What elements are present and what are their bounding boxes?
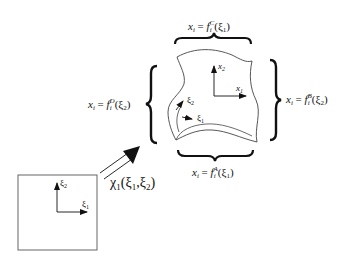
eq: = <box>293 93 305 105</box>
sub: 1 <box>86 204 89 210</box>
sub: 1 <box>240 88 243 94</box>
f-sub: i <box>210 26 212 34</box>
mapping-arrow-line-a <box>100 153 128 173</box>
eq: = <box>195 20 207 32</box>
args-sep: ,ξ <box>136 175 146 190</box>
eq: = <box>95 98 107 110</box>
bottom-brace <box>178 150 253 161</box>
left-edge-label: xi = fiD(ξ2) <box>88 98 130 112</box>
xi1-curvilinear-arrow <box>182 117 192 119</box>
reference-square <box>18 175 97 250</box>
x1-axis-label: x1 <box>236 84 243 94</box>
region-xi2-label: ξ2 <box>187 96 194 106</box>
x2-axis-label: x2 <box>218 62 225 72</box>
ref-xi2-label: ξ2 <box>60 179 67 189</box>
curvilinear-line-xi1 <box>176 124 252 140</box>
eq: = <box>199 166 211 178</box>
right-edge-label: xi = fiB(ξ2) <box>286 93 328 107</box>
close: ) <box>127 98 131 110</box>
ref-xi1-label: ξ1 <box>82 200 89 210</box>
close: ) <box>324 93 328 105</box>
args-open: (ξ <box>121 175 132 190</box>
curvilinear-line-xi2 <box>177 108 180 132</box>
arg: (ξ <box>214 20 223 32</box>
right-brace <box>270 60 281 140</box>
arg: (ξ <box>115 98 124 110</box>
diagram-canvas <box>0 0 347 260</box>
bottom-edge-label: xi = fiA(ξ1) <box>192 166 234 180</box>
region-xi1-label: ξ1 <box>197 114 204 124</box>
f-sub: i <box>214 172 216 180</box>
f-sub: i <box>110 104 112 112</box>
left-brace <box>146 66 157 143</box>
top-edge-label: xi = fiC(ξ1) <box>188 20 230 34</box>
close: ) <box>226 20 230 32</box>
args-close: ) <box>150 175 155 190</box>
sub: 2 <box>64 183 67 189</box>
sub: 1 <box>201 118 204 124</box>
mapping-label: χ1(ξ1,ξ2) <box>110 176 155 192</box>
f-sub: i <box>308 99 310 107</box>
sub: 2 <box>191 100 194 106</box>
sub: 2 <box>222 66 225 72</box>
close: ) <box>230 166 234 178</box>
top-brace <box>175 33 251 44</box>
